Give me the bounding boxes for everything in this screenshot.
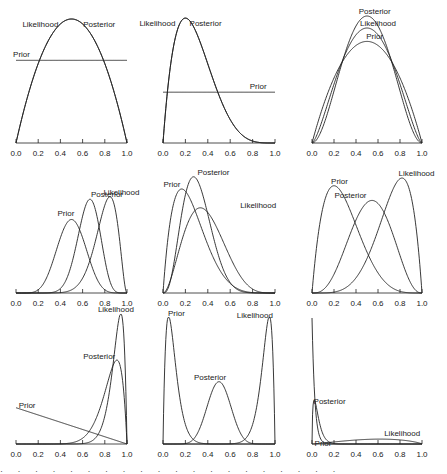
x-tick-label: 0.8 xyxy=(394,299,406,308)
x-tick-label: 0.2 xyxy=(180,299,192,308)
x-tick-label: 0.8 xyxy=(99,450,111,459)
x-tick-label: 0.0 xyxy=(10,149,22,158)
label-prior: Prior xyxy=(13,50,30,59)
x-tick-label: 0.2 xyxy=(328,450,340,459)
panel-r3c1: 0.00.20.40.60.81.0PriorPosteriorLikeliho… xyxy=(10,305,133,459)
x-tick-label: 0.6 xyxy=(77,149,89,158)
label-posterior: Posterior xyxy=(314,397,346,406)
x-tick-label: 0.0 xyxy=(306,450,318,459)
x-tick-label: 0.4 xyxy=(202,299,214,308)
x-tick-label: 0.8 xyxy=(394,149,406,158)
label-prior: Prior xyxy=(331,177,348,186)
x-tick-label: 0.4 xyxy=(350,299,362,308)
x-tick-label: 1.0 xyxy=(269,299,281,308)
label-posterior: Posterior xyxy=(359,7,391,16)
panel-r3c3: 0.00.20.40.60.81.0PriorPosteriorLikeliho… xyxy=(306,318,428,459)
x-tick-label: 0.8 xyxy=(99,149,111,158)
x-tick-label: 0.2 xyxy=(33,149,45,158)
label-posterior: Posterior xyxy=(83,20,115,29)
curve-posterior xyxy=(16,19,127,143)
label-likelihood: Likelihood xyxy=(360,19,396,28)
curve-prior xyxy=(312,186,422,293)
x-tick-label: 0.6 xyxy=(77,299,89,308)
x-tick-label: 0.2 xyxy=(328,299,340,308)
curve-likelihood xyxy=(163,208,275,293)
curve-prior xyxy=(16,408,127,444)
x-tick-label: 0.0 xyxy=(306,149,318,158)
x-tick-label: 0.0 xyxy=(10,450,22,459)
x-tick-label: 0.2 xyxy=(33,450,45,459)
x-tick-label: 0.6 xyxy=(372,299,384,308)
x-tick-label: 0.4 xyxy=(202,450,214,459)
label-prior: Prior xyxy=(164,180,181,189)
curve-posterior xyxy=(312,200,422,293)
label-prior: Prior xyxy=(366,32,383,41)
x-tick-label: 0.2 xyxy=(180,149,192,158)
curve-posterior xyxy=(163,382,275,444)
cut-off-caption: · · · · · · · · · · · · · · · · · · · · xyxy=(0,466,447,474)
x-tick-label: 0.8 xyxy=(247,299,259,308)
label-likelihood: Likelihood xyxy=(139,19,175,28)
panel-r2c3: 0.00.20.40.60.81.0PriorPosteriorLikeliho… xyxy=(306,169,434,308)
curve-likelihood xyxy=(163,18,275,143)
x-tick-label: 0.0 xyxy=(157,450,169,459)
x-tick-label: 0.2 xyxy=(180,450,192,459)
figure-grid: 0.00.20.40.60.81.0LikelihoodPosteriorPri… xyxy=(0,0,447,474)
label-likelihood: Likelihood xyxy=(103,188,139,197)
x-tick-label: 1.0 xyxy=(416,299,428,308)
x-tick-label: 0.6 xyxy=(225,149,237,158)
curve-likelihood xyxy=(16,314,127,444)
label-likelihood: Likelihood xyxy=(398,169,434,178)
x-tick-label: 0.4 xyxy=(350,149,362,158)
x-tick-label: 0.0 xyxy=(157,149,169,158)
panel-r1c1: 0.00.20.40.60.81.0LikelihoodPosteriorPri… xyxy=(10,19,133,158)
x-tick-label: 0.0 xyxy=(10,299,22,308)
x-tick-label: 1.0 xyxy=(269,149,281,158)
label-posterior: Posterior xyxy=(194,373,226,382)
x-tick-label: 1.0 xyxy=(121,450,133,459)
x-tick-label: 0.4 xyxy=(350,450,362,459)
panel-r2c2: 0.00.20.40.60.81.0PriorPosteriorLikeliho… xyxy=(157,168,281,308)
label-likelihood: Likelihood xyxy=(22,20,58,29)
panel-r3c2: 0.00.20.40.60.81.0PriorPosteriorLikeliho… xyxy=(157,309,281,459)
label-likelihood: Likelihood xyxy=(98,305,134,314)
panel-r1c3: 0.00.20.40.60.81.0PosteriorLikelihoodPri… xyxy=(306,7,428,158)
label-prior: Prior xyxy=(250,82,267,91)
x-tick-label: 0.8 xyxy=(247,450,259,459)
curve-prior xyxy=(312,318,422,444)
label-posterior: Posterior xyxy=(334,191,366,200)
x-tick-label: 1.0 xyxy=(416,450,428,459)
x-tick-label: 1.0 xyxy=(416,149,428,158)
label-prior: Prior xyxy=(168,309,185,318)
panel-r2c1: 0.00.20.40.60.81.0PriorPosteriorLikeliho… xyxy=(10,188,139,308)
x-tick-label: 0.6 xyxy=(225,450,237,459)
curve-posterior xyxy=(163,18,275,143)
label-likelihood: Likelihood xyxy=(237,311,273,320)
x-tick-label: 0.8 xyxy=(394,450,406,459)
curve-likelihood xyxy=(312,178,422,293)
x-tick-label: 0.4 xyxy=(55,450,67,459)
label-prior: Prior xyxy=(19,401,36,410)
x-tick-label: 0.2 xyxy=(33,299,45,308)
label-prior: Prior xyxy=(58,209,75,218)
x-tick-label: 0.4 xyxy=(55,149,67,158)
x-tick-label: 1.0 xyxy=(269,450,281,459)
label-likelihood: Likelihood xyxy=(384,429,420,438)
x-tick-label: 0.6 xyxy=(77,450,89,459)
x-tick-label: 0.0 xyxy=(157,299,169,308)
label-posterior: Posterior xyxy=(190,19,222,28)
label-likelihood: Likelihood xyxy=(240,201,276,210)
x-tick-label: 1.0 xyxy=(121,149,133,158)
label-posterior: Posterior xyxy=(197,168,229,177)
x-tick-label: 0.8 xyxy=(247,149,259,158)
curve-prior xyxy=(312,41,422,143)
x-tick-label: 0.6 xyxy=(225,299,237,308)
curve-likelihood xyxy=(312,28,422,143)
label-posterior: Posterior xyxy=(83,352,115,361)
x-tick-label: 0.4 xyxy=(202,149,214,158)
x-tick-label: 0.4 xyxy=(55,299,67,308)
x-tick-label: 0.6 xyxy=(372,450,384,459)
curve-posterior xyxy=(163,177,275,293)
x-tick-label: 0.2 xyxy=(328,149,340,158)
x-tick-label: 0.0 xyxy=(306,299,318,308)
